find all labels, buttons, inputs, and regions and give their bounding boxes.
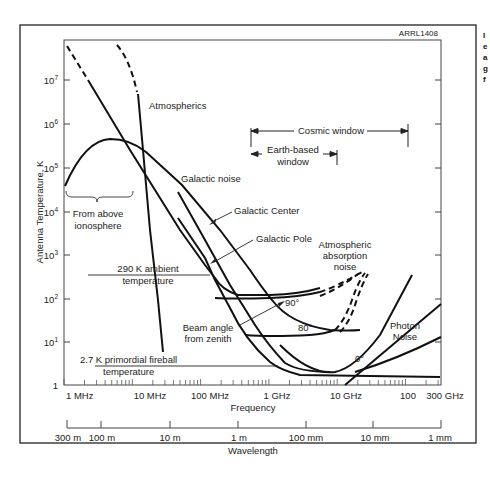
ionosphere-brace — [66, 191, 133, 202]
w-tick-1m: 1 m — [231, 432, 247, 443]
x-tick-1mhz: 1 MHz — [66, 390, 94, 401]
w-tick-300m: 300 m — [55, 432, 81, 443]
angle-0-label: 0° — [355, 353, 364, 364]
beam-angle-arrow-icon — [278, 301, 285, 307]
earth-window-label-2: window — [276, 156, 309, 167]
galactic-noise-dashed — [67, 46, 88, 80]
w-tick-10m: 10 m — [159, 432, 180, 443]
y-tick-1e2: 102 — [44, 293, 59, 305]
y-tick-1: 1 — [53, 380, 58, 391]
y-tick-1e6: 106 — [44, 118, 59, 130]
x-axis-label: Frequency — [231, 402, 276, 413]
x-tick-100ghz: 100 — [400, 390, 416, 401]
ambient-label-2: temperature — [122, 275, 173, 286]
side-caption-fragment: I e a g f — [483, 30, 490, 85]
fireball-label-1: 2.7 K primordial fireball — [80, 354, 177, 365]
y-tick-1e1: 101 — [44, 336, 59, 348]
atmospherics-dashed — [117, 45, 137, 92]
x-tick-1ghz: 1 GHz — [264, 390, 291, 401]
from-above-label-1: From above — [73, 208, 124, 219]
galactic-pole-arrow-icon — [210, 258, 217, 265]
w-tick-1mm: 1 mm — [428, 432, 452, 443]
wavelength-tick-labels: 300 m 100 m 10 m 1 m 100 mm 10 mm 1 mm — [55, 432, 452, 443]
from-above-label-2: ionosphere — [74, 220, 121, 231]
beam-80-dashed — [335, 273, 365, 330]
x-axis-ticks — [64, 379, 438, 385]
beam-angle-label-1: Beam angle — [183, 322, 234, 333]
side-char: g — [483, 63, 490, 74]
x-tick-300ghz: 300 GHz — [426, 390, 464, 401]
angle-90-label: 90° — [285, 297, 300, 308]
photon-noise-label-2: Noise — [393, 331, 417, 342]
w-tick-100mm: 100 mm — [289, 432, 323, 443]
ambient-label-1: 290 K ambient — [117, 263, 179, 274]
fireball-label-2: temperature — [103, 366, 154, 377]
antenna-temperature-chart: ARRL1408 107 106 105 104 103 102 101 1 A… — [0, 0, 490, 485]
y-axis-label: Antenna Temperature, K — [34, 160, 45, 263]
absorption-label-3: noise — [334, 261, 357, 272]
absorption-label-1: Atmospheric — [319, 239, 372, 250]
x-tick-10mhz: 10 MHz — [134, 390, 167, 401]
y-tick-1e5: 105 — [44, 162, 59, 174]
atmospherics-label: Atmospherics — [149, 100, 207, 111]
earth-window-label-1: Earth-based — [267, 144, 319, 155]
beam-angle-leader — [238, 302, 283, 326]
side-char: a — [483, 52, 490, 63]
galactic-noise-label: Galactic noise — [181, 173, 241, 184]
side-char: f — [483, 74, 490, 85]
w-tick-100m: 100 m — [89, 432, 115, 443]
beam-angle-label-2: from zenith — [185, 333, 232, 344]
figure-id: ARRL1408 — [399, 29, 439, 38]
cosmic-window-label: Cosmic window — [298, 125, 364, 136]
photon-noise-label-1: Photon — [390, 320, 420, 331]
beam-80-dashed-2 — [340, 274, 368, 332]
y-tick-1e7: 107 — [44, 74, 59, 86]
wavelength-axis — [67, 420, 441, 428]
x-tick-labels: 1 MHz 10 MHz 100 MHz 1 GHz 10 GHz 100 30… — [66, 390, 464, 401]
side-char: e — [483, 41, 490, 52]
y-tick-1e4: 104 — [44, 206, 59, 218]
y-tick-1e3: 103 — [44, 249, 59, 261]
x-tick-10ghz: 10 GHz — [330, 390, 362, 401]
angle-80-label: 80° — [298, 322, 313, 333]
galactic-pole-label: Galactic Pole — [256, 233, 312, 244]
side-char: I — [483, 30, 490, 41]
absorption-label-2: absorption — [323, 250, 367, 261]
galactic-noise-hump — [65, 139, 360, 331]
x-tick-100mhz: 100 MHz — [191, 390, 229, 401]
y-tick-labels: 107 106 105 104 103 102 101 1 — [44, 74, 59, 391]
w-tick-10mm: 10 mm — [360, 432, 389, 443]
wavelength-label: Wavelength — [228, 445, 278, 456]
atmospherics-curve — [138, 94, 163, 352]
galactic-pole-leader — [214, 240, 253, 262]
galactic-center-label: Galactic Center — [234, 205, 299, 216]
